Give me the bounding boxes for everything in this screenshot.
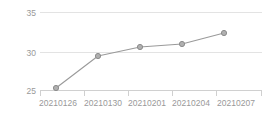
y-tick-label-25: 25 [27,86,37,96]
y-tick-label-35: 35 [27,8,37,18]
x-tick-label-20210201: 20210201 [128,98,166,108]
x-axis-tick-labels: 20210126 20210130 20210201 20210204 2021… [39,98,255,108]
x-tick-label-20210130: 20210130 [84,98,122,108]
chart-canvas: 35 30 25 20210126 20210130 20210201 2021… [0,0,265,115]
data-point-20210126[interactable]: 20210126: 25.6 [53,85,58,90]
x-tick-label-20210207: 20210207 [217,98,255,108]
data-point-20210201[interactable]: 20210201: 30.6 [137,44,142,49]
x-tick-label-20210126: 20210126 [39,98,77,108]
data-point-20210204[interactable]: 20210204: 31.0 [179,41,184,46]
series-line [56,33,224,88]
series-line-group [56,33,224,88]
x-tick-label-20210204: 20210204 [172,98,210,108]
data-point-20210207[interactable]: 20210207: 32.4 [221,30,226,35]
data-point-20210130[interactable]: 20210130: 29.4 [95,53,100,58]
x-axis-line [40,91,262,97]
y-tick-label-30: 30 [27,48,37,58]
line-chart: 35 30 25 20210126 20210130 20210201 2021… [0,0,265,115]
y-axis-tick-labels: 35 30 25 [27,8,37,96]
